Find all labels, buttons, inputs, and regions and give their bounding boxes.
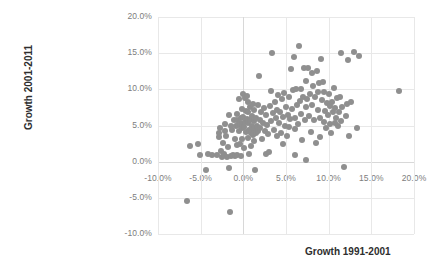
scatter-point bbox=[356, 53, 362, 59]
scatter-point bbox=[291, 54, 297, 60]
scatter-point bbox=[222, 121, 228, 127]
scatter-point bbox=[314, 68, 320, 74]
scatter-point bbox=[308, 129, 314, 135]
scatter-point bbox=[279, 96, 285, 102]
y-tick-label: 20.0% bbox=[106, 11, 152, 21]
scatter-point bbox=[303, 104, 309, 110]
scatter-point bbox=[298, 111, 304, 117]
scatter-point bbox=[244, 93, 250, 99]
scatter-point bbox=[328, 130, 334, 136]
scatter-point bbox=[238, 153, 244, 159]
scatter-point bbox=[303, 78, 309, 84]
scatter-point bbox=[335, 123, 341, 129]
y-tick-label: 10.0% bbox=[106, 83, 152, 93]
scatter-point bbox=[338, 50, 344, 56]
x-axis-title: Growth 1991-2001 bbox=[305, 246, 391, 257]
scatter-point bbox=[232, 136, 238, 142]
data-points-layer bbox=[158, 17, 414, 234]
scatter-point bbox=[313, 140, 319, 146]
scatter-point bbox=[292, 152, 298, 158]
scatter-point bbox=[280, 141, 286, 147]
scatter-point bbox=[255, 102, 261, 108]
scatter-point bbox=[288, 66, 294, 72]
scatter-point bbox=[272, 99, 278, 105]
scatter-point bbox=[269, 50, 275, 56]
scatter-point bbox=[309, 102, 315, 108]
scatter-point bbox=[338, 118, 344, 124]
scatter-point bbox=[296, 43, 302, 49]
scatter-point bbox=[312, 94, 318, 100]
y-tick-label: -5.0% bbox=[106, 192, 152, 202]
scatter-point bbox=[326, 91, 332, 97]
y-tick-label: -10.0% bbox=[106, 228, 152, 238]
scatter-point bbox=[348, 99, 354, 105]
gridline-horizontal bbox=[158, 234, 414, 235]
scatter-point bbox=[266, 149, 272, 155]
scatter-point bbox=[315, 107, 321, 113]
scatter-point bbox=[259, 136, 265, 142]
scatter-point bbox=[256, 73, 262, 79]
scatter-point bbox=[303, 157, 309, 163]
scatter-point bbox=[223, 133, 229, 139]
scatter-point bbox=[286, 94, 292, 100]
scatter-point bbox=[320, 79, 326, 85]
scatter-point bbox=[318, 56, 324, 62]
gridline-vertical bbox=[414, 17, 415, 234]
scatter-point bbox=[261, 105, 267, 111]
scatter-point bbox=[251, 138, 257, 144]
scatter-point bbox=[292, 115, 298, 121]
scatter-point bbox=[263, 112, 269, 118]
scatter-point bbox=[195, 141, 201, 147]
scatter-point bbox=[226, 165, 232, 171]
scatter-point bbox=[241, 145, 247, 151]
scatter-point bbox=[317, 134, 323, 140]
scatter-point bbox=[315, 89, 321, 95]
y-tick-label: 5.0% bbox=[106, 120, 152, 130]
scatter-point bbox=[225, 144, 231, 150]
scatter-point bbox=[187, 143, 193, 149]
scatter-point bbox=[278, 130, 284, 136]
y-tick-label: 15.0% bbox=[106, 47, 152, 57]
scatter-point bbox=[299, 137, 305, 143]
scatter-point bbox=[271, 127, 277, 133]
scatter-point bbox=[345, 57, 351, 63]
scatter-point bbox=[396, 88, 402, 94]
scatter-point bbox=[321, 119, 327, 125]
scatter-point bbox=[227, 209, 233, 215]
scatter-point bbox=[343, 113, 349, 119]
scatter-point bbox=[346, 133, 352, 139]
scatter-point bbox=[252, 167, 258, 173]
scatter-chart: Growth 2001-2011 Growth 1991-2001 -10.0%… bbox=[0, 0, 435, 266]
scatter-point bbox=[337, 94, 343, 100]
plot-area bbox=[158, 17, 414, 234]
scatter-point bbox=[354, 125, 360, 131]
scatter-point bbox=[265, 131, 271, 137]
scatter-point bbox=[246, 151, 252, 157]
scatter-point bbox=[203, 167, 209, 173]
scatter-point bbox=[331, 85, 337, 91]
scatter-point bbox=[341, 164, 347, 170]
scatter-point bbox=[197, 152, 203, 158]
scatter-point bbox=[298, 86, 304, 92]
scatter-point bbox=[268, 88, 274, 94]
y-axis-title: Growth 2001-2011 bbox=[23, 13, 34, 163]
scatter-point bbox=[295, 121, 301, 127]
scatter-point bbox=[284, 133, 290, 139]
scatter-point bbox=[184, 198, 190, 204]
y-tick-label: 0.0% bbox=[106, 156, 152, 166]
